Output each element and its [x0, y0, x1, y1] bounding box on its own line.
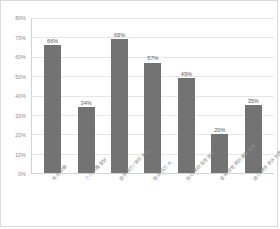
bar-value-label: 49%	[181, 71, 192, 77]
bar-slot: 69%	[103, 18, 136, 173]
y-axis-tick-label: 40%	[15, 93, 26, 99]
bar-chart-figure: 0%10%20%30%40%50%60%70%80% 66%34%69%57%4…	[0, 0, 278, 227]
bar[interactable]: 66%	[44, 45, 61, 173]
bar-value-label: 34%	[81, 100, 92, 106]
x-axis-slot: 家长及老师的期望影响	[203, 175, 237, 227]
bar-value-label: 35%	[248, 98, 259, 104]
plot-area: 66%34%69%57%49%20%35%	[31, 18, 274, 174]
bar[interactable]: 57%	[144, 63, 161, 173]
x-axis: 专业前景个人兴趣爱好自身能力/学历水平就业压力大担心考研失败就业家长及老师的期望…	[31, 175, 274, 227]
bar-slot: 57%	[136, 18, 169, 173]
x-axis-slot: 担心考研失败就业	[169, 175, 203, 227]
bar-value-label: 20%	[214, 127, 225, 133]
y-axis-tick-label: 0%	[18, 171, 26, 177]
bar[interactable]: 69%	[111, 39, 128, 173]
y-axis-tick-label: 50%	[15, 74, 26, 80]
y-axis-tick-label: 20%	[15, 132, 26, 138]
bar-slot: 49%	[170, 18, 203, 173]
bar-series: 66%34%69%57%49%20%35%	[32, 18, 274, 173]
bar[interactable]: 34%	[78, 107, 95, 173]
bar-slot: 66%	[36, 18, 69, 173]
bar-value-label: 69%	[114, 32, 125, 38]
bar-slot: 34%	[69, 18, 102, 173]
y-axis-tick-label: 60%	[15, 54, 26, 60]
x-axis-slot: 专业前景	[35, 175, 69, 227]
bar-value-label: 66%	[47, 38, 58, 44]
x-axis-slot: 自身能力/学历水平	[102, 175, 136, 227]
y-axis-tick-label: 10%	[15, 152, 26, 158]
y-axis-tick-label: 70%	[15, 35, 26, 41]
bar[interactable]: 49%	[178, 78, 195, 173]
y-axis-tick-label: 80%	[15, 15, 26, 21]
bar-value-label: 57%	[147, 55, 158, 61]
y-axis: 0%10%20%30%40%50%60%70%80%	[1, 18, 29, 174]
bar[interactable]: 35%	[245, 105, 262, 173]
x-axis-slot: 就业压力大	[136, 175, 170, 227]
x-axis-slot: 个人兴趣爱好	[69, 175, 103, 227]
x-axis-slot: 自己想多学点东西	[236, 175, 270, 227]
bar-slot: 20%	[203, 18, 236, 173]
y-axis-tick-label: 30%	[15, 113, 26, 119]
